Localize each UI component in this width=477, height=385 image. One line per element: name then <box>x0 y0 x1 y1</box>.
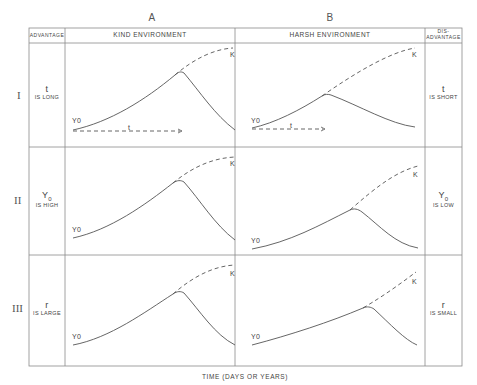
curve-row2-harsh <box>252 166 418 249</box>
curve-row1-kind <box>73 48 235 133</box>
header-harsh-environment: HARSH ENVIRONMENT <box>235 31 425 38</box>
y0-label-row1-kind: Y0 <box>72 117 81 124</box>
advantage-row3-condition: IS LARGE <box>29 310 65 316</box>
header-kind-environment: KIND ENVIRONMENT <box>65 31 235 38</box>
advantage-row2: Y0 IS HIGH <box>29 190 65 208</box>
disadvantage-row2: Y0 IS LOW <box>425 190 462 208</box>
t-label-row1-kind: t <box>128 124 130 131</box>
header-advantage: ADVANTAGE <box>29 32 65 38</box>
k-label-row3-kind: K <box>230 270 235 277</box>
disadvantage-row2-condition: IS LOW <box>425 202 462 208</box>
k-label-row1-harsh: K <box>412 51 417 58</box>
diagram-canvas <box>0 0 477 385</box>
disadvantage-row1: t IS SHORT <box>425 84 462 100</box>
row-numeral-3: III <box>12 302 23 314</box>
x-axis-label: TIME (DAYS OR YEARS) <box>180 373 310 380</box>
header-disadvantage: DIS- ADVANTAGE <box>425 28 462 40</box>
k-label-row2-harsh: K <box>413 171 418 178</box>
k-label-row2-kind: K <box>230 160 235 167</box>
row-numeral-2: II <box>14 194 21 206</box>
row-numeral-1: I <box>17 89 21 101</box>
curve-row2-kind <box>73 157 235 240</box>
disadvantage-row1-condition: IS SHORT <box>425 94 462 100</box>
disadvantage-row2-symbol: Y0 <box>425 190 462 202</box>
disadvantage-row1-symbol: t <box>425 84 462 94</box>
curve-row1-harsh <box>252 48 415 131</box>
y0-label-row3-harsh: Y0 <box>251 333 260 340</box>
k-label-row1-kind: K <box>230 51 235 58</box>
header-disadvantage-line2: ADVANTAGE <box>426 34 461 40</box>
advantage-row3-symbol: r <box>29 300 65 310</box>
curve-row3-harsh <box>252 272 417 345</box>
disadvantage-row3: r IS SMALL <box>425 300 462 316</box>
advantage-row2-condition: IS HIGH <box>29 202 65 208</box>
disadvantage-row3-condition: IS SMALL <box>425 310 462 316</box>
disadvantage-row3-symbol: r <box>425 300 462 310</box>
y0-label-row3-kind: Y0 <box>72 333 81 340</box>
k-label-row3-harsh: K <box>412 278 417 285</box>
y0-label-row2-harsh: Y0 <box>251 237 260 244</box>
advantage-row1-symbol: t <box>29 84 65 94</box>
column-letter-a: A <box>147 12 157 23</box>
y0-label-row2-kind: Y0 <box>72 226 81 233</box>
t-label-row1-harsh: t <box>290 122 292 129</box>
curve-row3-kind <box>73 265 235 345</box>
column-letter-b: B <box>325 12 335 23</box>
y0-label-row1-harsh: Y0 <box>251 117 260 124</box>
advantage-row2-symbol: Y0 <box>29 190 65 202</box>
advantage-row1: t IS LONG <box>29 84 65 100</box>
advantage-row3: r IS LARGE <box>29 300 65 316</box>
advantage-row1-condition: IS LONG <box>29 94 65 100</box>
grid-lines <box>29 28 462 366</box>
